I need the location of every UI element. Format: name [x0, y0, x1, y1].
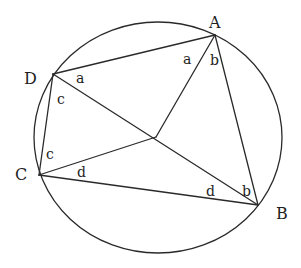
- cyclic-quadrilateral-diagram: A B C D a c a b c d d b: [0, 0, 301, 268]
- angle-label-a-at-A: a: [183, 51, 191, 67]
- vertex-label-B: B: [276, 204, 288, 223]
- circumcircle: [34, 22, 282, 253]
- vertex-label-A: A: [208, 13, 221, 32]
- angle-label-b-at-B: b: [242, 183, 251, 199]
- segment-C-to-interior: [39, 137, 156, 175]
- vertex-label-C: C: [15, 165, 27, 184]
- side-BC: [39, 175, 258, 205]
- angle-label-d-at-C: d: [77, 164, 86, 180]
- angle-label-c-at-C: c: [46, 146, 54, 162]
- diagonal-DB: [53, 74, 258, 205]
- angle-label-d-at-B: d: [206, 183, 215, 199]
- side-AB: [215, 35, 258, 205]
- angle-label-b-at-A: b: [210, 52, 219, 68]
- angle-label-c-at-D: c: [57, 91, 65, 107]
- vertex-label-D: D: [24, 69, 37, 88]
- angle-label-a-at-D: a: [76, 70, 84, 86]
